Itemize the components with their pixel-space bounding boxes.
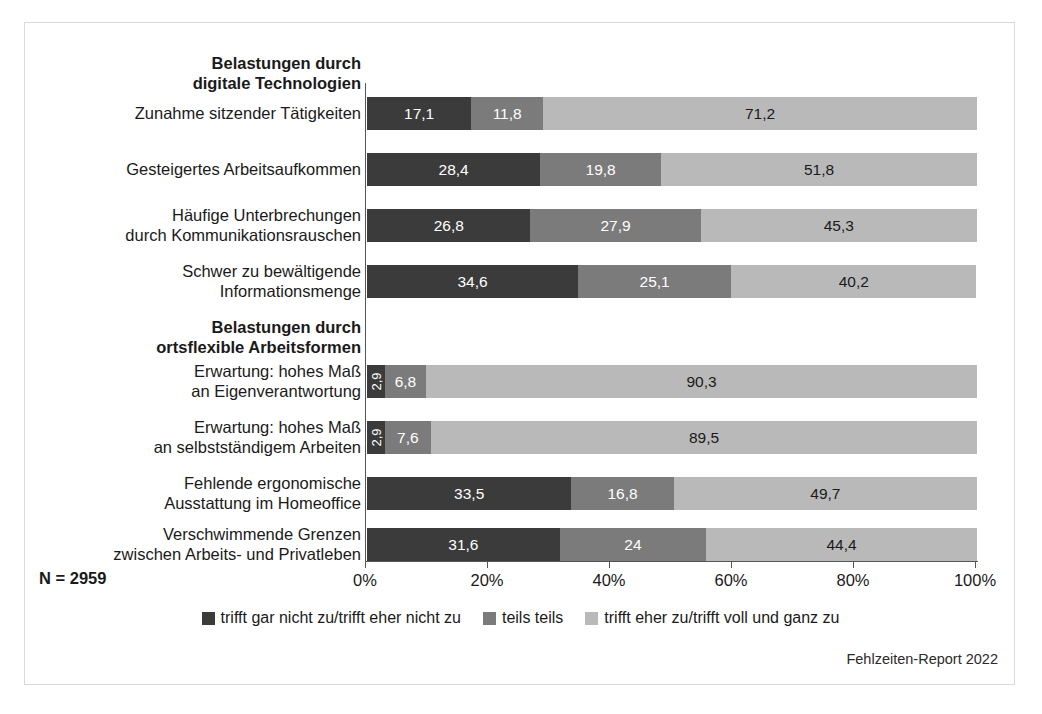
x-axis-tick: [731, 561, 732, 568]
stacked-bar: 34,625,140,2: [367, 265, 977, 298]
category-label: Häufige Unterbrechungen durch Kommunikat…: [31, 205, 361, 245]
bar-segment: 24: [560, 528, 706, 561]
x-axis-tick: [487, 561, 488, 568]
legend-swatch-icon: [585, 612, 598, 625]
x-axis-tick-label: 100%: [954, 571, 996, 590]
x-axis-tick-label: 40%: [592, 571, 625, 590]
bar-segment: 16,8: [571, 477, 673, 510]
bar-segment: 25,1: [578, 265, 731, 298]
legend-label: trifft eher zu/trifft voll und ganz zu: [604, 609, 839, 627]
bar-value-label: 6,8: [395, 373, 417, 391]
bar-segment: 17,1: [367, 97, 471, 130]
bar-segment: 40,2: [731, 265, 976, 298]
group-heading: Belastungen durch ortsflexible Arbeitsfo…: [31, 317, 361, 357]
bar-segment: 89,5: [431, 421, 977, 454]
stacked-bar: 28,419,851,8: [367, 153, 977, 186]
x-axis-tick: [853, 561, 854, 568]
group-heading: Belastungen durch digitale Technologien: [31, 53, 361, 93]
stacked-bar: 31,62444,4: [367, 528, 977, 561]
category-label: Erwartung: hohes Maß an selbstständigem …: [31, 417, 361, 457]
bar-segment: 51,8: [661, 153, 977, 186]
category-label: Erwartung: hohes Maß an Eigenverantwortu…: [31, 361, 361, 401]
bar-segment: 2,9: [367, 365, 385, 398]
bar-value-label: 44,4: [826, 536, 856, 554]
bar-value-label: 49,7: [810, 485, 840, 503]
x-axis-tick-label: 20%: [470, 571, 503, 590]
bar-value-label: 31,6: [448, 536, 478, 554]
category-label: Zunahme sitzender Tätigkeiten: [31, 103, 361, 123]
stacked-bar: 2,97,689,5: [367, 421, 977, 454]
x-axis-tick: [609, 561, 610, 568]
category-label: Fehlende ergonomische Ausstattung im Hom…: [31, 473, 361, 513]
y-axis-line: [365, 83, 366, 561]
legend-item: trifft gar nicht zu/trifft eher nicht zu: [202, 609, 461, 627]
stacked-bar: 2,96,890,3: [367, 365, 977, 398]
bar-value-label: 89,5: [689, 429, 719, 447]
stacked-bar-chart: Belastungen durch digitale TechnologienZ…: [25, 23, 1014, 684]
bar-segment: 31,6: [367, 528, 560, 561]
legend-label: teils teils: [502, 609, 563, 627]
stacked-bar: 33,516,849,7: [367, 477, 977, 510]
bar-value-label: 2,9: [368, 428, 383, 446]
x-axis-tick-label: 0%: [353, 571, 377, 590]
bar-value-label: 45,3: [824, 217, 854, 235]
legend-item: trifft eher zu/trifft voll und ganz zu: [585, 609, 839, 627]
chart-legend: trifft gar nicht zu/trifft eher nicht zu…: [25, 609, 1016, 627]
bar-segment: 7,6: [385, 421, 431, 454]
bar-segment: 19,8: [540, 153, 661, 186]
stacked-bar: 26,827,945,3: [367, 209, 977, 242]
stacked-bar: 17,111,871,2: [367, 97, 977, 130]
bar-segment: 28,4: [367, 153, 540, 186]
bar-value-label: 7,6: [397, 429, 419, 447]
sample-size-note: N = 2959: [39, 569, 106, 588]
bar-segment: 34,6: [367, 265, 578, 298]
legend-swatch-icon: [202, 612, 215, 625]
bar-segment: 33,5: [367, 477, 571, 510]
x-axis-line: [365, 561, 978, 562]
legend-item: teils teils: [483, 609, 563, 627]
bar-segment: 49,7: [674, 477, 977, 510]
bar-segment: 71,2: [543, 97, 977, 130]
x-axis-tick: [975, 561, 976, 568]
bar-segment: 90,3: [426, 365, 977, 398]
legend-swatch-icon: [483, 612, 496, 625]
category-label: Schwer zu bewältigende Informationsmenge: [31, 261, 361, 301]
bar-value-label: 17,1: [404, 105, 434, 123]
bar-value-label: 11,8: [493, 105, 522, 123]
bar-value-label: 26,8: [434, 217, 464, 235]
bar-segment: 27,9: [530, 209, 700, 242]
bar-value-label: 19,8: [586, 161, 616, 179]
bar-segment: 2,9: [367, 421, 385, 454]
x-axis-tick-label: 60%: [714, 571, 747, 590]
bar-value-label: 28,4: [439, 161, 469, 179]
bar-value-label: 90,3: [686, 373, 716, 391]
bar-segment: 6,8: [385, 365, 426, 398]
bar-value-label: 40,2: [839, 273, 869, 291]
bar-value-label: 16,8: [607, 485, 637, 503]
category-label: Gesteigertes Arbeitsaufkommen: [31, 159, 361, 179]
category-label: Verschwimmende Grenzen zwischen Arbeits-…: [31, 524, 361, 564]
bar-value-label: 2,9: [368, 372, 383, 390]
bar-segment: 44,4: [706, 528, 977, 561]
bar-segment: 26,8: [367, 209, 530, 242]
bar-value-label: 25,1: [640, 273, 670, 291]
bar-segment: 45,3: [701, 209, 977, 242]
bar-value-label: 27,9: [600, 217, 630, 235]
bar-value-label: 34,6: [457, 273, 487, 291]
x-axis-tick: [365, 561, 366, 568]
source-credit: Fehlzeiten-Report 2022: [846, 651, 998, 667]
bar-value-label: 33,5: [454, 485, 484, 503]
bar-value-label: 51,8: [804, 161, 834, 179]
chart-figure-frame: Belastungen durch digitale TechnologienZ…: [24, 22, 1015, 685]
legend-label: trifft gar nicht zu/trifft eher nicht zu: [221, 609, 461, 627]
bar-value-label: 24: [624, 536, 641, 554]
bar-value-label: 71,2: [745, 105, 775, 123]
bar-segment: 11,8: [471, 97, 543, 130]
x-axis-tick-label: 80%: [836, 571, 869, 590]
